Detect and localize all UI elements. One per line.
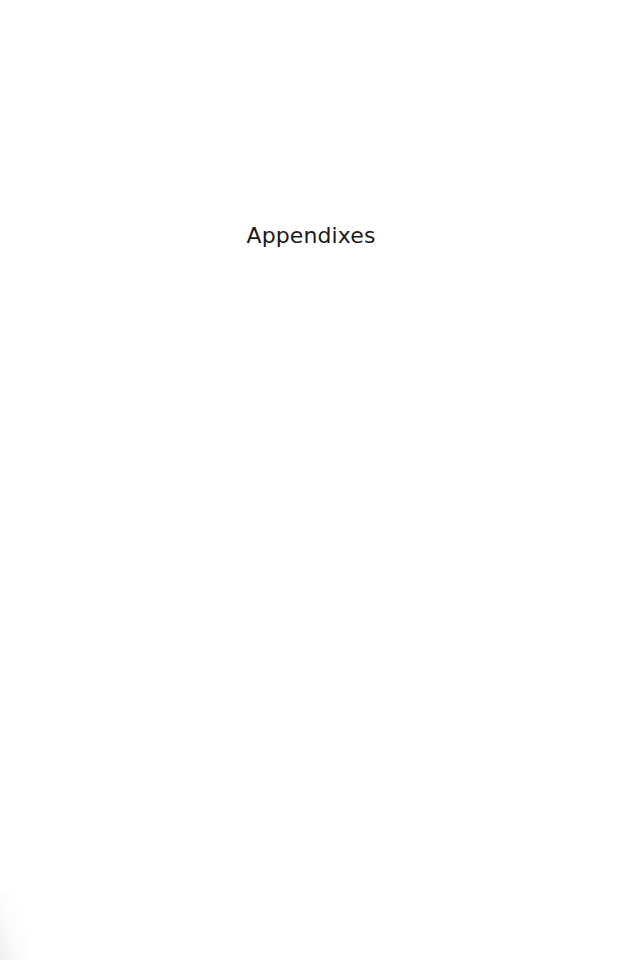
document-page: Appendixes <box>0 0 622 960</box>
section-title: Appendixes <box>0 222 622 250</box>
page-edge-shadow <box>0 890 30 960</box>
